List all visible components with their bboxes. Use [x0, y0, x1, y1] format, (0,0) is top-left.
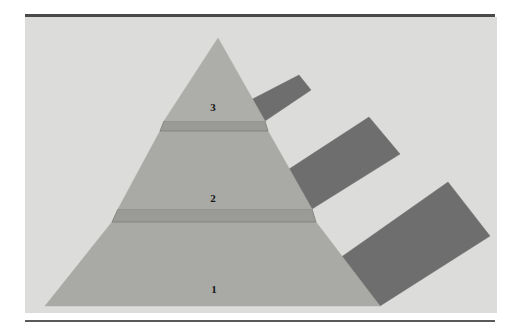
tier-3-label: 3 [210, 101, 216, 113]
tier-2-label: 2 [210, 192, 216, 204]
screenshot-root: 1 2 3 [0, 0, 519, 334]
tier-1-label: 1 [211, 283, 217, 295]
tier-2-top-band [160, 121, 268, 131]
tier-3-group[interactable]: 3 [164, 38, 311, 121]
tier-2-group[interactable]: 2 [118, 117, 400, 209]
pyramid-diagram: 1 2 3 [0, 0, 519, 334]
tier-1-top-band [112, 209, 316, 222]
